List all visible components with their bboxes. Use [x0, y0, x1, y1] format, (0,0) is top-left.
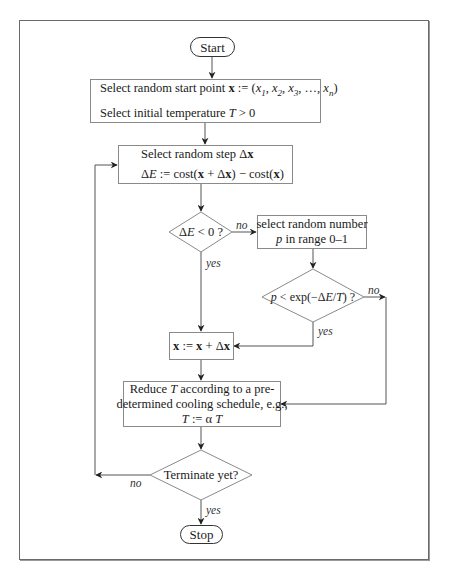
cooling-process-box: Reduce T according to a pre- determined … — [123, 381, 281, 427]
update-x-label: x := x + Δx — [173, 339, 230, 354]
init-line-1: Select random start point x := (x1, x2, … — [100, 81, 338, 101]
step-line-1: Select random step Δx — [141, 147, 254, 162]
cooling-line-3: T := α T — [182, 412, 222, 427]
edge-label-delta-yes: yes — [206, 257, 221, 269]
decision-terminate-label: Terminate yet? — [164, 468, 238, 483]
edge-accept-yes — [234, 322, 313, 346]
step-line-2: ΔE := cost(x + Δx) − cost(x) — [141, 167, 284, 182]
start-label: Start — [200, 40, 225, 55]
random-p-line-2: p in range 0–1 — [276, 232, 348, 247]
cooling-line-2: determined cooling schedule, e.g., — [116, 397, 287, 412]
decision-delta-label: ΔE < 0 ? — [179, 225, 223, 240]
edge-terminate-no-b — [95, 165, 117, 475]
init-line-2: Select initial temperature T > 0 — [100, 106, 255, 121]
edge-label-delta-no: no — [236, 219, 248, 231]
random-p-line-1: select random number — [256, 217, 367, 232]
decision-accept-label: p < exp(−ΔE/T) ? — [271, 290, 355, 305]
init-process-box: Select random start point x := (x1, x2, … — [90, 79, 321, 123]
step-process-box: Select random step Δx ΔE := cost(x + Δx)… — [118, 145, 293, 184]
update-x-process-box: x := x + Δx — [169, 332, 234, 360]
start-terminal: Start — [190, 37, 235, 57]
edge-label-terminate-no: no — [130, 477, 142, 489]
random-p-process-box: select random number p in range 0–1 — [257, 215, 367, 249]
stop-terminal: Stop — [180, 525, 223, 544]
cooling-line-1: Reduce T according to a pre- — [130, 382, 275, 397]
edge-label-accept-no: no — [368, 284, 380, 296]
stop-label: Stop — [190, 527, 214, 542]
edge-label-terminate-yes: yes — [206, 504, 221, 516]
edge-label-accept-yes: yes — [318, 325, 333, 337]
